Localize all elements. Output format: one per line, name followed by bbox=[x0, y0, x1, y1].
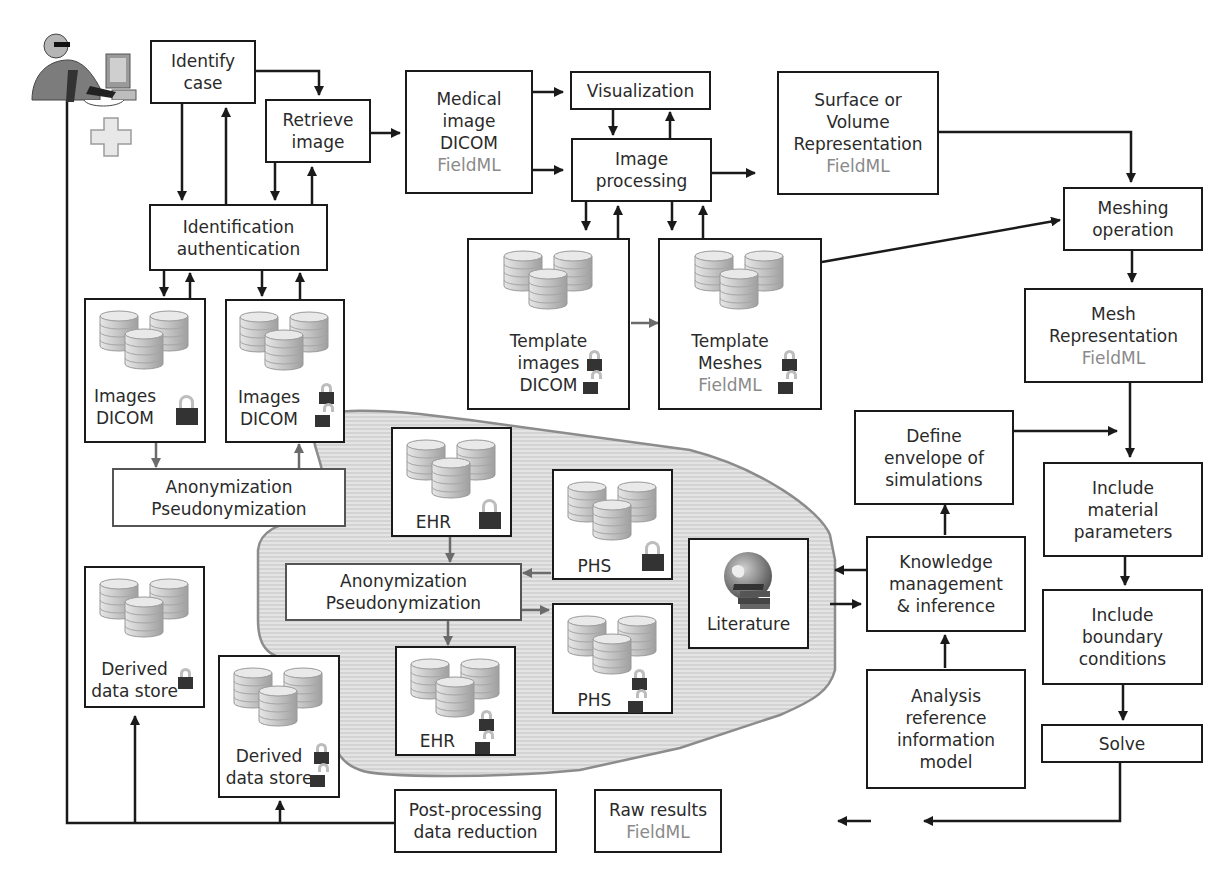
padlock-unlocked-icon bbox=[310, 766, 325, 787]
post-processing-box: Post-processing data reduction bbox=[394, 789, 557, 853]
knowledge-line-1: Knowledge bbox=[899, 551, 992, 573]
format-label: FieldML bbox=[1082, 347, 1145, 369]
meshing-operation-box: Meshing operation bbox=[1063, 187, 1203, 251]
anon-top-line-2: Pseudonymization bbox=[151, 498, 306, 520]
knowledge-line-3: & inference bbox=[897, 595, 995, 617]
database-icon bbox=[99, 310, 191, 380]
derived-locked-store: Deriveddata store bbox=[84, 566, 205, 708]
define-line-2: envelope of bbox=[884, 447, 984, 469]
post-line-1: Post-processing bbox=[409, 799, 542, 821]
ehr-locked-store: EHR bbox=[391, 427, 512, 537]
boundary-line-2: boundary bbox=[1082, 626, 1163, 648]
store-label: EHR bbox=[375, 511, 492, 533]
database-icon bbox=[99, 578, 191, 648]
template-meshes-store: TemplateMeshesFieldML bbox=[658, 238, 822, 410]
analysis-line-1: Analysis bbox=[911, 685, 981, 707]
anon-top-line-1: Anonymization bbox=[166, 476, 293, 498]
identify-case-line-1: Identify bbox=[171, 50, 235, 72]
padlock-unlocked-icon bbox=[778, 373, 793, 394]
material-line-1: Include bbox=[1092, 477, 1154, 499]
medical-image-line-1: Medical bbox=[436, 88, 501, 110]
identification-line-2: authentication bbox=[177, 238, 301, 260]
derived-mixed-store: Deriveddata store bbox=[218, 655, 340, 798]
image-processing-line-1: Image bbox=[615, 148, 668, 170]
padlock-unlocked-icon bbox=[583, 373, 598, 394]
padlock-locked-icon bbox=[642, 541, 664, 571]
solve-label: Solve bbox=[1099, 733, 1145, 755]
padlock-locked-icon bbox=[587, 350, 602, 371]
anonymization-box-top: Anonymization Pseudonymization bbox=[112, 468, 346, 527]
template-images-store: TemplateimagesDICOM bbox=[467, 238, 630, 410]
anon-center-line-2: Pseudonymization bbox=[326, 592, 481, 614]
mesh-rep-line-1: Mesh bbox=[1091, 303, 1136, 325]
identify-case-line-2: case bbox=[183, 72, 222, 94]
image-processing-line-2: processing bbox=[596, 170, 688, 192]
surface-line-3: Representation bbox=[793, 133, 922, 155]
store-label: TemplateimagesDICOM bbox=[469, 330, 628, 396]
padlock-locked-icon bbox=[479, 499, 501, 529]
database-icon bbox=[239, 311, 331, 381]
identify-case-box: Identify case bbox=[150, 40, 256, 104]
boundary-line-3: conditions bbox=[1079, 648, 1166, 670]
include-material-box: Include material parameters bbox=[1043, 462, 1203, 557]
ehr-mixed-store: EHR bbox=[395, 646, 516, 756]
database-icon bbox=[503, 250, 595, 320]
retrieve-image-line-2: image bbox=[292, 131, 345, 153]
identification-authentication-box: Identification authentication bbox=[149, 204, 328, 271]
store-label: Deriveddata store bbox=[76, 658, 193, 702]
identification-line-1: Identification bbox=[183, 216, 294, 238]
mesh-representation-box: Mesh Representation FieldML bbox=[1024, 288, 1203, 383]
define-line-1: Define bbox=[906, 425, 962, 447]
raw-results-label: Raw results bbox=[609, 799, 707, 821]
post-line-2: data reduction bbox=[413, 821, 537, 843]
format-label: FieldML bbox=[826, 155, 889, 177]
analysis-line-3: information bbox=[897, 729, 995, 751]
padlock-locked-icon bbox=[479, 710, 494, 731]
images-dicom-mixed-store: ImagesDICOM bbox=[225, 299, 345, 443]
padlock-locked-icon bbox=[782, 350, 797, 371]
analysis-line-4: model bbox=[920, 751, 973, 773]
anonymization-box-center: Anonymization Pseudonymization bbox=[285, 563, 522, 621]
medical-image-line-2: image bbox=[443, 110, 496, 132]
material-line-3: parameters bbox=[1074, 521, 1173, 543]
padlock-locked-icon bbox=[632, 669, 647, 690]
padlock-unlocked-icon bbox=[475, 733, 490, 754]
boundary-line-1: Include bbox=[1092, 604, 1154, 626]
medical-cross-icon bbox=[90, 117, 132, 157]
anon-center-line-1: Anonymization bbox=[340, 570, 467, 592]
format-label: FieldML bbox=[437, 154, 500, 176]
database-icon bbox=[233, 667, 325, 737]
store-label: PHS bbox=[536, 555, 653, 577]
padlock-locked-icon bbox=[176, 395, 198, 425]
mesh-rep-line-2: Representation bbox=[1049, 325, 1178, 347]
retrieve-image-box: Retrieve image bbox=[265, 99, 371, 163]
knowledge-line-2: management bbox=[889, 573, 1003, 595]
padlock-locked-icon bbox=[319, 383, 334, 404]
raw-results-box: Raw results FieldML bbox=[594, 789, 722, 853]
meshing-line-2: operation bbox=[1092, 219, 1174, 241]
store-label: ImagesDICOM bbox=[66, 385, 184, 429]
images-dicom-locked-store: ImagesDICOM bbox=[84, 298, 206, 443]
surface-volume-representation-box: Surface or Volume Representation FieldML bbox=[777, 71, 939, 195]
analysis-line-2: reference bbox=[905, 707, 986, 729]
store-label: ImagesDICOM bbox=[211, 386, 327, 430]
padlock-unlocked-icon bbox=[315, 406, 330, 427]
surface-line-2: Volume bbox=[826, 111, 889, 133]
solve-box: Solve bbox=[1041, 724, 1203, 763]
define-envelope-box: Define envelope of simulations bbox=[854, 410, 1014, 505]
medical-image-box: Medical image DICOM FieldML bbox=[405, 70, 533, 194]
visualization-label: Visualization bbox=[587, 80, 694, 102]
phs-mixed-store: PHS bbox=[552, 603, 673, 714]
meshing-line-1: Meshing bbox=[1097, 197, 1168, 219]
knowledge-management-box: Knowledge management & inference bbox=[866, 536, 1026, 632]
padlock-locked-icon bbox=[314, 743, 329, 764]
globe-books-icon bbox=[718, 550, 782, 610]
padlock-unlocked-icon bbox=[628, 692, 643, 713]
retrieve-image-line-1: Retrieve bbox=[283, 109, 354, 131]
analysis-reference-model-box: Analysis reference information model bbox=[866, 669, 1026, 789]
clinician-at-computer-icon bbox=[28, 30, 138, 110]
define-line-3: simulations bbox=[885, 469, 982, 491]
literature-label: Literature bbox=[707, 613, 790, 635]
literature-box: Literature bbox=[688, 538, 809, 649]
surface-line-1: Surface or bbox=[814, 89, 902, 111]
